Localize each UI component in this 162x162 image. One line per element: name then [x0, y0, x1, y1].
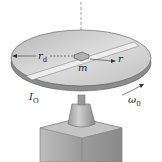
position-label: r	[118, 54, 123, 64]
turntable-drawing	[0, 0, 162, 162]
disk-radius-label: rd	[38, 51, 47, 64]
angular-velocity-label: ω0	[128, 95, 141, 108]
diagram: rd m r IO ω0	[0, 0, 162, 162]
mass-label: m	[78, 63, 87, 73]
inertia-label: IO	[29, 92, 39, 105]
pedestal	[68, 95, 95, 127]
